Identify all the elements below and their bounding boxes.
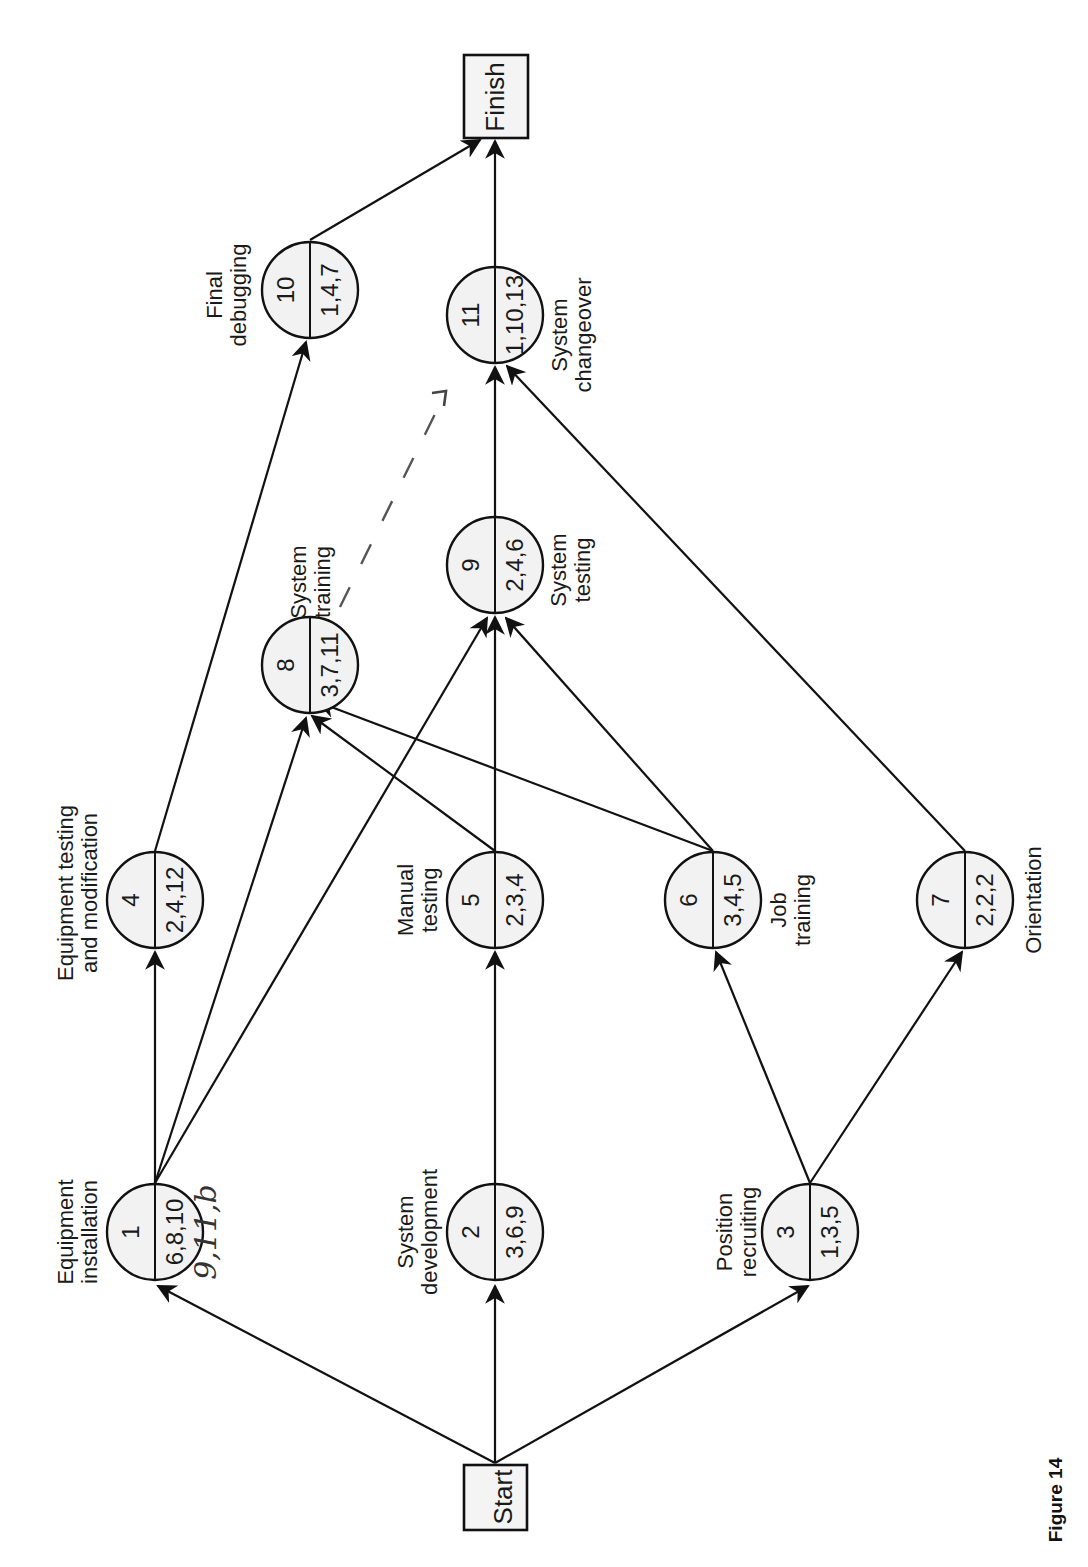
- edge-7-11: [507, 366, 965, 851]
- node-8-estimates: 3,7,11: [316, 633, 343, 698]
- node-3-number: 3: [772, 1225, 799, 1238]
- node-11-label-line1: System: [547, 298, 572, 371]
- node-8-label-line2: training: [310, 546, 335, 618]
- handdrawn-arrowhead-icon: [432, 391, 446, 406]
- node-4: 4 2,4,12 Equipment testing and modificat…: [53, 805, 203, 981]
- node-3-estimates: 1,3,5: [816, 1205, 843, 1258]
- figure-caption: Figure 14: [1045, 1457, 1066, 1542]
- edge-1-8: [155, 718, 306, 1183]
- node-11-estimates: 1,10,13: [501, 275, 528, 355]
- finish-label: Finish: [480, 62, 510, 131]
- node-10-label-line1: Final: [202, 271, 227, 319]
- node-10-number: 10: [272, 277, 299, 304]
- edge-5-8: [312, 716, 495, 851]
- node-10-estimates: 1,4,7: [316, 263, 343, 316]
- node-5-label-line1: Manual: [393, 864, 418, 936]
- node-1: 1 6,8,10 Equipment installation 9,11,b: [53, 1179, 223, 1284]
- node-6-label-line2: training: [790, 874, 815, 946]
- node-1-estimates: 6,8,10: [161, 1199, 188, 1266]
- edge-6-8: [318, 702, 713, 851]
- node-4-estimates: 2,4,12: [161, 867, 188, 934]
- node-2-number: 2: [457, 1225, 484, 1238]
- node-2: 2 3,6,9 System development: [393, 1169, 543, 1295]
- node-6: 6 3,4,5 Job training: [665, 852, 815, 948]
- node-5-label-line2: testing: [417, 868, 442, 933]
- node-1-label-line2: installation: [77, 1180, 102, 1284]
- node-11-number: 11: [457, 303, 484, 328]
- node-7-label-line1: Orientation: [1021, 846, 1046, 954]
- node-5-estimates: 2,3,4: [501, 873, 528, 926]
- edge-3-6: [716, 952, 810, 1183]
- node-8: 8 3,7,11 System training: [262, 545, 358, 713]
- node-2-label-line2: development: [417, 1169, 442, 1295]
- node-3: 3 1,3,5 Position recruiting: [712, 1184, 858, 1280]
- node-4-label-line1: Equipment testing: [53, 805, 78, 981]
- pert-network-diagram: Start Finish 1 6,8,10 Equipment installa…: [0, 0, 1088, 1567]
- node-6-number: 6: [675, 893, 702, 906]
- edge-10-finish: [310, 140, 480, 240]
- node-9: 9 2,4,6 System testing: [447, 517, 595, 613]
- node-3-label-line1: Position: [712, 1193, 737, 1271]
- node-6-label-line1: Job: [766, 892, 791, 927]
- edge-6-9: [506, 618, 713, 851]
- node-2-label-line1: System: [393, 1195, 418, 1268]
- node-8-label-line1: System: [286, 545, 311, 618]
- edge-start-1: [158, 1286, 495, 1463]
- edge-start-3: [495, 1286, 808, 1463]
- node-8-number: 8: [272, 658, 299, 671]
- node-4-label-line2: and modification: [77, 813, 102, 973]
- node-10-label-line2: debugging: [226, 244, 251, 347]
- node-1-label-line1: Equipment: [53, 1179, 78, 1284]
- start-label: Start: [488, 1469, 518, 1525]
- node-9-number: 9: [457, 558, 484, 571]
- node-11: 11 1,10,13 System changeover: [447, 267, 596, 392]
- node-5: 5 2,3,4 Manual testing: [393, 852, 543, 948]
- node-7: 7 2,2,2 Orientation: [917, 846, 1046, 954]
- node-7-number: 7: [927, 893, 954, 906]
- node-9-estimates: 2,4,6: [501, 538, 528, 591]
- node-10: 10 1,4,7 Final debugging: [202, 242, 358, 346]
- start-terminal: Start: [464, 1465, 527, 1530]
- node-1-handwritten-note: 9,11,b: [188, 1184, 223, 1280]
- node-3-label-line2: recruiting: [736, 1187, 761, 1277]
- edge-8-11-dashed: [340, 408, 438, 607]
- node-9-label-line2: testing: [570, 538, 595, 603]
- node-4-number: 4: [117, 893, 144, 906]
- finish-terminal: Finish: [464, 55, 528, 138]
- node-6-estimates: 3,4,5: [719, 873, 746, 926]
- edge-3-7: [810, 952, 962, 1183]
- node-1-number: 1: [117, 1225, 144, 1238]
- node-7-estimates: 2,2,2: [971, 873, 998, 926]
- node-9-label-line1: System: [546, 533, 571, 606]
- node-2-estimates: 3,6,9: [501, 1205, 528, 1258]
- node-5-number: 5: [457, 893, 484, 906]
- edge-4-10: [155, 342, 306, 851]
- node-11-label-line2: changeover: [571, 278, 596, 393]
